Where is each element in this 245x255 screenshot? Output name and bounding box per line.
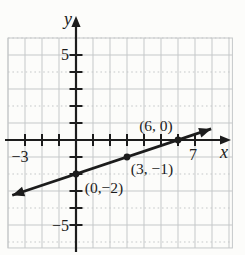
y-axis-label: y xyxy=(62,9,72,29)
data-point-dot xyxy=(124,154,131,161)
y-tick-label: −5 xyxy=(52,217,69,234)
data-point-dot xyxy=(73,171,80,178)
x-tick-label: 7 xyxy=(189,146,197,163)
x-tick-label: −3 xyxy=(11,148,28,165)
x-axis-label: x xyxy=(219,142,228,162)
graph-canvas: (0,−2)(3, −1)(6, 0)−375−5yx xyxy=(0,0,245,255)
point-label: (6, 0) xyxy=(139,117,173,135)
coordinate-plane-figure: (0,−2)(3, −1)(6, 0)−375−5yx xyxy=(0,0,245,255)
point-label: (3, −1) xyxy=(131,160,173,178)
point-label: (0,−2) xyxy=(85,179,123,197)
y-tick-label: 5 xyxy=(61,46,69,63)
data-point-dot xyxy=(175,137,182,144)
